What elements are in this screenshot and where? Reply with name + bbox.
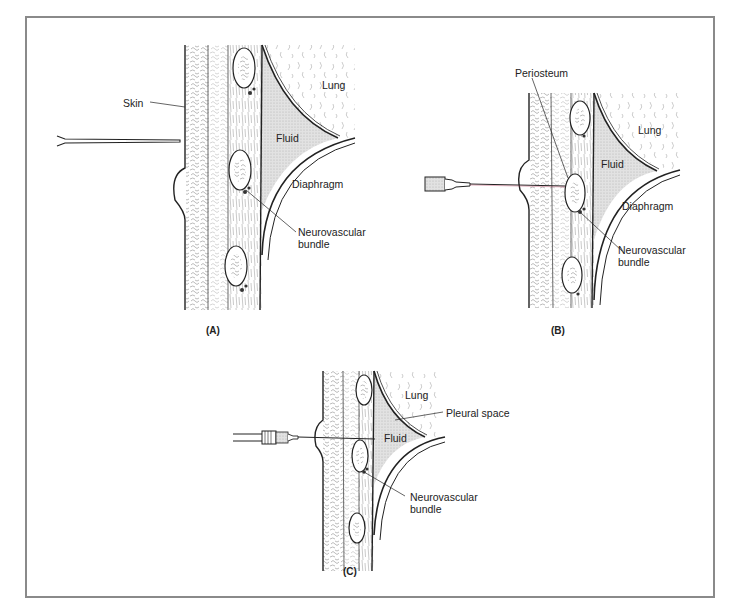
label-lung-c: Lung	[405, 389, 428, 401]
panel-c	[233, 371, 445, 571]
label-pleural-space-c: Pleural space	[446, 407, 510, 419]
label-neurovascular-a: Neurovascular	[298, 226, 366, 238]
caption-c: (C)	[343, 566, 357, 577]
label-neurovascular-c: Neurovascular	[410, 491, 478, 503]
thoracentesis-illustration	[0, 0, 742, 613]
caption-a: (A)	[206, 325, 220, 336]
panel-b	[425, 78, 680, 308]
label-fluid-b: Fluid	[601, 158, 624, 170]
label-periosteum-b: Periosteum	[515, 67, 568, 79]
label-bundle-c: bundle	[410, 503, 442, 515]
label-fluid-c: Fluid	[384, 432, 407, 444]
label-skin-a: Skin	[123, 97, 143, 109]
caption-b: (B)	[551, 325, 565, 336]
label-diaphragm-a: Diaphragm	[292, 178, 343, 190]
label-fluid-a: Fluid	[276, 132, 299, 144]
label-bundle-b: bundle	[618, 256, 650, 268]
label-neurovascular-b: Neurovascular	[618, 244, 686, 256]
label-bundle-a: bundle	[298, 238, 330, 250]
label-lung-b: Lung	[638, 124, 661, 136]
label-diaphragm-b: Diaphragm	[622, 200, 673, 212]
label-lung-a: Lung	[322, 79, 345, 91]
